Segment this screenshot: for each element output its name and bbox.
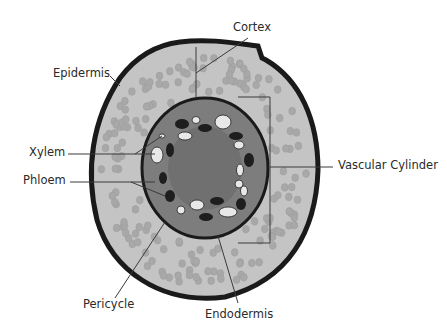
label-endodermis: Endodermis — [205, 309, 273, 321]
label-xylem: Xylem — [29, 147, 65, 159]
label-vascular-cylinder: Vascular Cylinder — [338, 160, 438, 172]
label-pericycle: Pericycle — [83, 299, 134, 311]
label-cortex: Cortex — [233, 22, 271, 34]
label-phloem: Phloem — [23, 175, 66, 187]
label-epidermis: Epidermis — [53, 68, 110, 80]
